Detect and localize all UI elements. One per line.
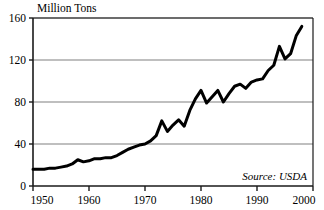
x-tick-label-1950: 1950	[31, 194, 54, 206]
x-tick-label-1960: 1960	[78, 194, 101, 206]
line-chart: 04080120160 195019601970198019902000 Mil…	[0, 0, 324, 210]
y-tick-label-120: 120	[9, 54, 27, 66]
y-axis-title: Million Tons	[37, 2, 97, 14]
chart-container: 04080120160 195019601970198019902000 Mil…	[0, 0, 324, 210]
x-tick-label-1990: 1990	[246, 194, 269, 206]
x-tick-label-2000: 2000	[293, 194, 316, 206]
y-tick-label-80: 80	[15, 96, 27, 108]
y-tick-label-40: 40	[15, 138, 27, 150]
x-tick-label-1970: 1970	[134, 194, 157, 206]
source-annotation: Source: USDA	[242, 170, 307, 182]
y-tick-label-0: 0	[20, 180, 26, 192]
x-tick-label-1980: 1980	[190, 194, 213, 206]
y-tick-label-160: 160	[9, 12, 27, 24]
